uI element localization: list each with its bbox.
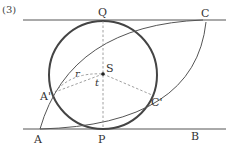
label-A: A: [33, 133, 43, 146]
label-t: t: [95, 77, 100, 88]
label-A-prime: A': [39, 90, 51, 103]
label-P: P: [98, 133, 106, 146]
dashed-S-Cprime: [103, 74, 152, 95]
label-Q: Q: [98, 6, 107, 19]
problem-number: (3): [2, 4, 16, 15]
geometry-diagram: (3) Q C S r t A' C' A P B: [0, 0, 237, 149]
label-r: r: [75, 68, 81, 79]
point-S: [101, 72, 105, 76]
label-B: B: [191, 130, 199, 143]
label-C-prime: C': [151, 96, 162, 109]
label-C: C: [201, 7, 209, 20]
label-S: S: [106, 62, 114, 75]
